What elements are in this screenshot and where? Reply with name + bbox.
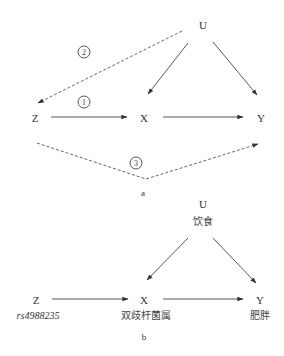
node-b-x-name: 双歧杆菌属 (121, 311, 171, 321)
node-b-z-name: rs4988235 (17, 311, 60, 321)
edge-a-u-to-y (213, 42, 257, 95)
diagram-a-edges (37, 31, 258, 179)
path-label-3: 3 (130, 157, 143, 170)
node-b-u-name: 饮食 (193, 217, 213, 227)
path-label-1: 1 (78, 96, 91, 109)
node-a-x: X (140, 113, 148, 124)
node-b-y-symbol: Y (256, 295, 264, 306)
path-label-2: 2 (78, 46, 91, 59)
node-b-u-symbol: U (199, 199, 207, 210)
edge-a-z-to-y-dashed (37, 143, 258, 179)
edge-b-u-to-x (147, 238, 188, 280)
edge-b-u-to-y (213, 238, 256, 283)
edge-a-u-to-z-dashed (38, 31, 182, 103)
caption-a: a (141, 189, 145, 198)
caption-b: b (142, 333, 147, 342)
node-b-y-name: 肥胖 (250, 311, 270, 321)
node-a-u: U (199, 20, 207, 31)
edge-a-u-to-x (148, 43, 188, 94)
node-b-x-symbol: X (140, 295, 148, 306)
node-a-y: Y (257, 113, 265, 124)
node-b-z-symbol: Z (33, 295, 40, 306)
node-a-z: Z (32, 113, 39, 124)
diagram-b-edges (52, 238, 256, 299)
